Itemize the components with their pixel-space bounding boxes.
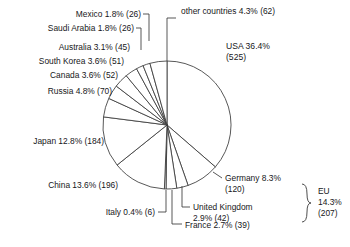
slice-label-italy: Italy 0.4% (6) — [106, 207, 156, 217]
leader-united-kingdom — [182, 186, 190, 207]
eu-percent: 14.3% — [318, 197, 342, 207]
pie-slices-group — [103, 61, 231, 189]
slice-label-usa: USA 36.4% — [226, 41, 270, 51]
eu-value: (207) — [318, 208, 338, 218]
slice-label-united-kingdom: United Kingdom — [193, 202, 253, 212]
slice-label-australia: Australia 3.1% (45) — [59, 42, 130, 52]
leader-saudi-arabia — [136, 28, 141, 50]
slice-label-japan: Japan 12.8% (184) — [33, 136, 104, 146]
leader-germany — [213, 172, 222, 178]
slice-label-france: France 2.7% (39) — [185, 220, 250, 230]
slice-label-canada: Canada 3.6% (52) — [50, 70, 118, 80]
slice-label-russia: Russia 4.8% (70) — [48, 86, 112, 96]
leader-france — [172, 190, 182, 224]
slice-label-other-countries: other countries 4.3% (62) — [181, 6, 275, 16]
slice-label-germany: Germany 8.3% — [225, 173, 281, 183]
pie-chart: Mexico 1.8% (26) Saudi Arabia 1.8% (26) … — [0, 0, 350, 247]
leader-mexico — [143, 14, 149, 41]
leader-other-countries — [167, 18, 176, 61]
eu-brace-icon — [302, 184, 311, 222]
slice-value-usa: (525) — [226, 52, 246, 62]
eu-label: EU — [318, 186, 330, 196]
slice-value-germany: (120) — [225, 184, 245, 194]
slice-label-mexico: Mexico 1.8% (26) — [76, 9, 141, 19]
leader-italy — [158, 190, 166, 212]
slice-label-south-korea: South Korea 3.6% (51) — [39, 56, 124, 66]
pie-chart-svg: Mexico 1.8% (26) Saudi Arabia 1.8% (26) … — [0, 0, 350, 247]
slice-label-china: China 13.6% (196) — [48, 180, 118, 190]
slice-label-saudi-arabia: Saudi Arabia 1.8% (26) — [48, 23, 134, 33]
